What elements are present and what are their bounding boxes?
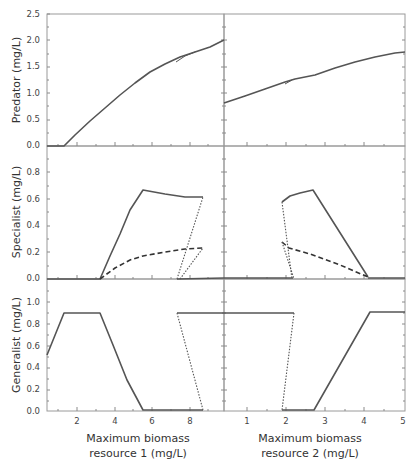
transition-dotted	[177, 313, 203, 410]
x1-label-line1: Maximum biomass	[86, 432, 190, 445]
tick-label: 0.8	[26, 319, 40, 329]
x2-tick-labels: 1 2 3 4 5	[244, 416, 405, 426]
tick-label: 2	[74, 416, 79, 426]
tick-label: 0.6	[26, 194, 40, 204]
tick-label: 6	[149, 416, 154, 426]
specialist-extinct-curve	[177, 278, 224, 279]
generalist-curve	[282, 312, 405, 410]
specialist-stable-curve	[282, 190, 368, 277]
tick-label: 1.0	[26, 88, 40, 98]
predator-panel-right	[224, 14, 405, 146]
tick-label: 0.0	[26, 140, 40, 150]
predator-curve	[224, 52, 405, 103]
generalist-panel-right	[224, 279, 405, 411]
tick-label: 2.5	[26, 9, 40, 19]
tick-label: 8	[187, 416, 192, 426]
transition-dotted-1	[282, 202, 292, 279]
tick-label: 0.0	[26, 273, 40, 283]
specialist-cycle-min-curve	[100, 248, 203, 279]
predator-curve	[47, 40, 224, 146]
tick-marks	[47, 14, 405, 411]
x2-label-line1: Maximum biomass	[258, 432, 362, 445]
specialist-panel-right	[224, 146, 405, 279]
predator-y-ticks: 2.5 2.0 1.5 1.0 0.5 0.0	[26, 9, 40, 150]
x1-label-line2: resource 1 (mg/L)	[89, 447, 187, 460]
tick-label: 0.8	[26, 167, 40, 177]
tick-label: 5	[400, 416, 405, 426]
tick-label: 0.6	[26, 341, 40, 351]
x2-label-line2: resource 2 (mg/L)	[261, 447, 359, 460]
generalist-curve	[47, 313, 203, 410]
tick-label: 2.0	[26, 35, 40, 45]
predator-left-curves	[47, 40, 224, 146]
generalist-panel-left	[47, 279, 224, 411]
specialist-cycle-min-curve	[282, 242, 368, 277]
predator-right-curves	[224, 52, 405, 103]
generalist-right-curves	[224, 312, 405, 410]
specialist-stable-curve	[47, 190, 203, 279]
generalist-left-curves	[47, 313, 224, 410]
x1-tick-labels: 2 4 6 8	[74, 416, 192, 426]
transition-dotted-1	[177, 197, 203, 279]
tick-label: 0.0	[26, 406, 40, 416]
tick-label: 2	[283, 416, 288, 426]
figure: 2.5 2.0 1.5 1.0 0.5 0.0 0.8 0.6 0.4 0.2 …	[0, 0, 417, 465]
tick-label: 4	[112, 416, 117, 426]
tick-label: 0.5	[26, 114, 40, 124]
tick-label: 0.2	[26, 247, 40, 257]
generalist-y-ticks: 1.0 0.8 0.6 0.4 0.2 0.0	[26, 297, 40, 416]
tick-label: 0.4	[26, 362, 40, 372]
tick-label: 1.5	[26, 61, 40, 71]
tick-label: 1.0	[26, 297, 40, 307]
predator-y-label: Predator (mg/L)	[10, 37, 23, 123]
predator-panel-left	[47, 14, 224, 146]
specialist-y-label: Specialist (mg/L)	[10, 166, 23, 258]
tick-label: 0.4	[26, 220, 40, 230]
specialist-right-curves	[224, 190, 405, 279]
tick-label: 1	[244, 416, 249, 426]
tick-label: 0.2	[26, 384, 40, 394]
transition-dotted	[282, 313, 294, 410]
specialist-left-curves	[47, 190, 224, 279]
transition-dotted-2	[180, 248, 203, 279]
tick-label: 3	[322, 416, 327, 426]
generalist-y-label: Generalist (mg/L)	[10, 297, 23, 393]
tick-label: 4	[361, 416, 366, 426]
specialist-y-ticks: 0.8 0.6 0.4 0.2 0.0	[26, 167, 40, 283]
